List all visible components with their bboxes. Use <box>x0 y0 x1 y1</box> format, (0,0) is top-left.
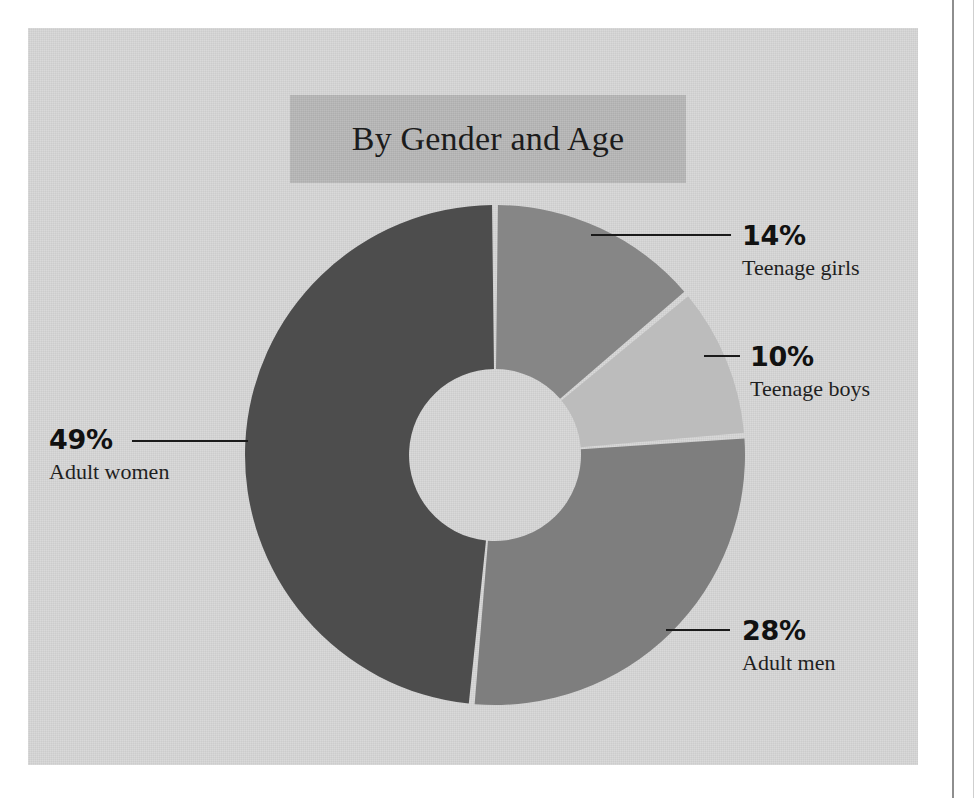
chart-title: By Gender and Age <box>290 95 686 183</box>
callout-adult-men-percent: 28% <box>742 617 836 645</box>
callout-teenage-girls: 14% Teenage girls <box>742 222 860 282</box>
donut-slice-adult-women <box>245 205 494 704</box>
leader-line-teenage-boys <box>704 355 740 357</box>
leader-line-adult-men <box>666 629 730 631</box>
donut-slice-adult-men <box>475 439 745 705</box>
callout-adult-women-label: Adult women <box>49 458 169 486</box>
callout-teenage-girls-percent: 14% <box>742 222 860 250</box>
callout-teenage-boys: 10% Teenage boys <box>750 343 870 403</box>
callout-adult-women: 49% Adult women <box>49 426 169 486</box>
leader-line-teenage-girls <box>591 234 731 236</box>
callout-teenage-boys-label: Teenage boys <box>750 375 870 403</box>
page-edge-rule <box>952 0 954 798</box>
page-sheet: By Gender and Age 14% Teenage girls 10% … <box>0 0 974 798</box>
callout-adult-men: 28% Adult men <box>742 617 836 677</box>
callout-teenage-girls-label: Teenage girls <box>742 254 860 282</box>
leader-line-adult-women <box>132 440 248 442</box>
callout-teenage-boys-percent: 10% <box>750 343 870 371</box>
callout-adult-men-label: Adult men <box>742 649 836 677</box>
chart-panel: By Gender and Age 14% Teenage girls 10% … <box>28 28 918 765</box>
